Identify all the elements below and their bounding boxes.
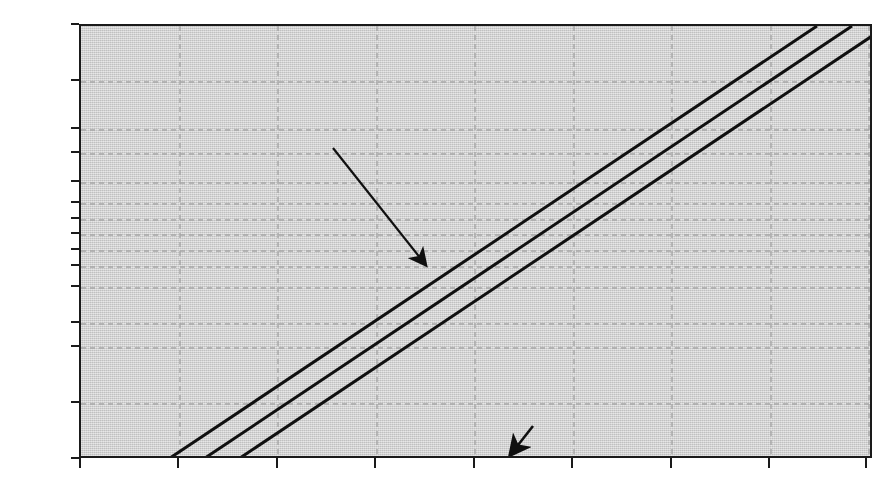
normal-probability-plot-figure [0,0,881,502]
annotation-arrows [81,26,872,458]
normality-note-arrow [333,148,425,264]
plot-area [79,24,872,458]
axis-note-arrow [511,426,533,454]
